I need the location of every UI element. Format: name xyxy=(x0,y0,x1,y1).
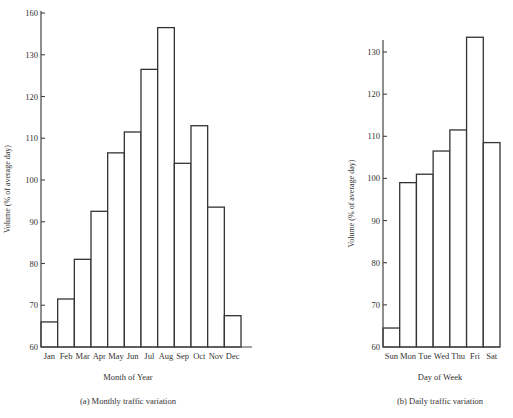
y-tick-label: 100 xyxy=(367,173,380,183)
x-category-label: Oct xyxy=(193,351,206,361)
x-category-label: Nov xyxy=(209,351,224,361)
bar-aug xyxy=(158,28,175,347)
x-category-label: Wed xyxy=(434,351,450,361)
bar-nov xyxy=(208,207,225,347)
daily-chart: 60708090100110120130SunMonTueWedThuFriSa… xyxy=(347,37,500,406)
x-category-label: Dec xyxy=(226,351,240,361)
x-category-label: Jun xyxy=(127,351,140,361)
bar-wed xyxy=(433,151,450,347)
x-category-label: Jul xyxy=(144,351,155,361)
x-category-label: Thu xyxy=(451,351,465,361)
x-category-label: Apr xyxy=(93,351,106,361)
y-tick-label: 110 xyxy=(368,131,380,141)
y-tick-label: 130 xyxy=(367,47,380,57)
y-tick-label: 80 xyxy=(30,259,39,269)
y-tick-label: 100 xyxy=(25,175,38,185)
x-category-label: Jan xyxy=(44,351,56,361)
bar-sun xyxy=(383,328,400,347)
bar-dec xyxy=(224,316,241,347)
bar-feb xyxy=(58,299,75,347)
x-category-label: Feb xyxy=(60,351,73,361)
bar-may xyxy=(108,153,125,347)
y-tick-label: 70 xyxy=(30,300,39,310)
y-tick-label: 60 xyxy=(30,342,39,352)
x-category-label: Tue xyxy=(418,351,431,361)
y-tick-label: 160 xyxy=(25,8,38,18)
y-tick-label: 90 xyxy=(30,217,39,227)
bar-jan xyxy=(41,322,58,347)
y-tick-label: 120 xyxy=(367,89,380,99)
bar-mar xyxy=(74,259,91,347)
x-category-label: Aug xyxy=(159,351,174,361)
figure: 60708090100110120130160JanFebMarAprMayJu… xyxy=(0,0,513,418)
bar-sat xyxy=(483,143,500,347)
bar-sep xyxy=(174,163,191,347)
y-tick-label: 120 xyxy=(25,92,38,102)
x-category-label: Sun xyxy=(385,351,399,361)
x-category-label: Mar xyxy=(76,351,90,361)
bar-jun xyxy=(124,132,141,347)
x-category-label: Fri xyxy=(470,351,481,361)
x-axis-title: Month of Year xyxy=(103,372,153,382)
monthly-chart: 60708090100110120130160JanFebMarAprMayJu… xyxy=(3,8,252,406)
bar-apr xyxy=(91,211,108,347)
y-tick-label: 110 xyxy=(26,133,38,143)
bar-tue xyxy=(416,174,433,347)
x-category-label: Sep xyxy=(176,351,189,361)
bar-mon xyxy=(400,183,417,347)
y-tick-label: 60 xyxy=(372,342,381,352)
bar-jul xyxy=(141,69,158,347)
bar-thu xyxy=(450,130,467,347)
bar-oct xyxy=(191,126,208,347)
y-tick-label: 80 xyxy=(372,258,381,268)
x-category-label: Sat xyxy=(486,351,498,361)
y-axis-title: Volume (% of average day) xyxy=(3,145,12,233)
x-axis-title: Day of Week xyxy=(418,372,463,382)
x-category-label: Mon xyxy=(400,351,417,361)
chart-caption: (a) Monthly traffic variation xyxy=(80,396,177,406)
chart-caption: (b) Daily traffic variation xyxy=(397,396,484,406)
y-tick-label: 130 xyxy=(25,50,38,60)
bar-fri xyxy=(467,37,484,347)
y-tick-label: 90 xyxy=(372,216,381,226)
x-category-label: May xyxy=(108,351,124,361)
y-tick-label: 70 xyxy=(372,300,381,310)
y-axis-title: Volume (% of average day) xyxy=(347,159,356,247)
traffic-variation-charts: 60708090100110120130160JanFebMarAprMayJu… xyxy=(0,0,513,418)
